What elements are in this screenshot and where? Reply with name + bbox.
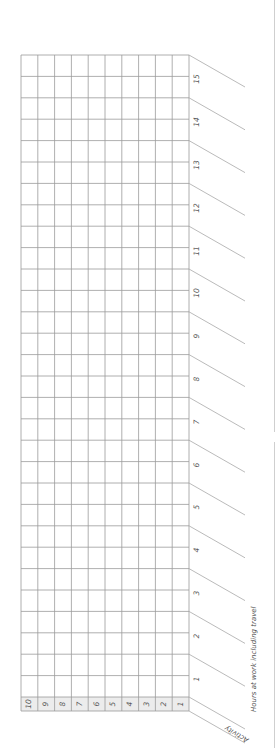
- activity-label: 4: [125, 697, 135, 711]
- activity-label: 6: [92, 697, 102, 711]
- hour-label: 4: [192, 543, 202, 557]
- activity-label: 3: [142, 697, 152, 711]
- activity-label: 7: [75, 697, 85, 711]
- activity-label: 8: [58, 697, 68, 711]
- hours-axis-title: Hours at work including travel: [250, 606, 258, 712]
- activity-hours-grid: [0, 0, 275, 748]
- activity-label: 9: [41, 697, 51, 711]
- hour-label: 5: [192, 500, 202, 514]
- activity-label: 2: [159, 697, 169, 711]
- hour-label: 10: [192, 286, 202, 300]
- hour-label: 9: [192, 329, 202, 343]
- activity-label: 5: [108, 697, 118, 711]
- activity-label: 1: [176, 697, 186, 711]
- hour-label: 13: [192, 158, 202, 172]
- hour-label: 2: [192, 629, 202, 643]
- hour-label: 12: [192, 201, 202, 215]
- hour-divider-diagonal: [189, 697, 245, 729]
- hour-label: 7: [192, 415, 202, 429]
- hour-label: 8: [192, 372, 202, 386]
- hour-label: 11: [192, 244, 202, 258]
- activity-label: 10: [24, 697, 34, 711]
- hour-label: 3: [192, 586, 202, 600]
- hour-label: 1: [192, 672, 202, 686]
- hour-label: 14: [192, 115, 202, 129]
- hour-label: 15: [192, 72, 202, 86]
- hour-label: 6: [192, 458, 202, 472]
